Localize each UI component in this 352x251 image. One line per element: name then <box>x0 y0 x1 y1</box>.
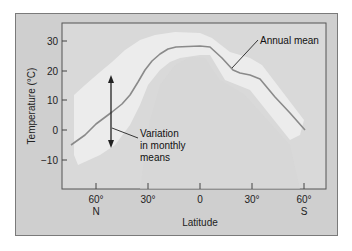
y-tick-10: 10 <box>47 95 59 106</box>
x-tick-30n: 30° <box>140 194 155 205</box>
x-tick-60n: 60° <box>88 194 103 205</box>
variation-label-line3: means <box>140 152 170 163</box>
x-tick-60s: 60° <box>296 194 311 205</box>
variation-label-line2: in monthly <box>140 140 186 151</box>
y-tick-30: 30 <box>47 36 59 47</box>
annual-mean-label: Annual mean <box>260 35 319 46</box>
y-tick-0: 0 <box>52 125 58 136</box>
variation-label-line1: Variation <box>140 128 179 139</box>
x-tick-30s: 30° <box>244 194 259 205</box>
x-tick-0: 0 <box>197 194 203 205</box>
y-tick-20: 20 <box>47 66 59 77</box>
x-tick-s: S <box>301 206 308 217</box>
y-tick-neg10: −10 <box>41 155 58 166</box>
x-tick-n: N <box>92 206 99 217</box>
temperature-latitude-chart: 30 20 10 0 −10 60° N 30° 0 30° 60° S Lat… <box>0 0 352 251</box>
x-axis-title: Latitude <box>182 217 218 228</box>
y-axis-title: Temperature (°C) <box>26 68 37 145</box>
